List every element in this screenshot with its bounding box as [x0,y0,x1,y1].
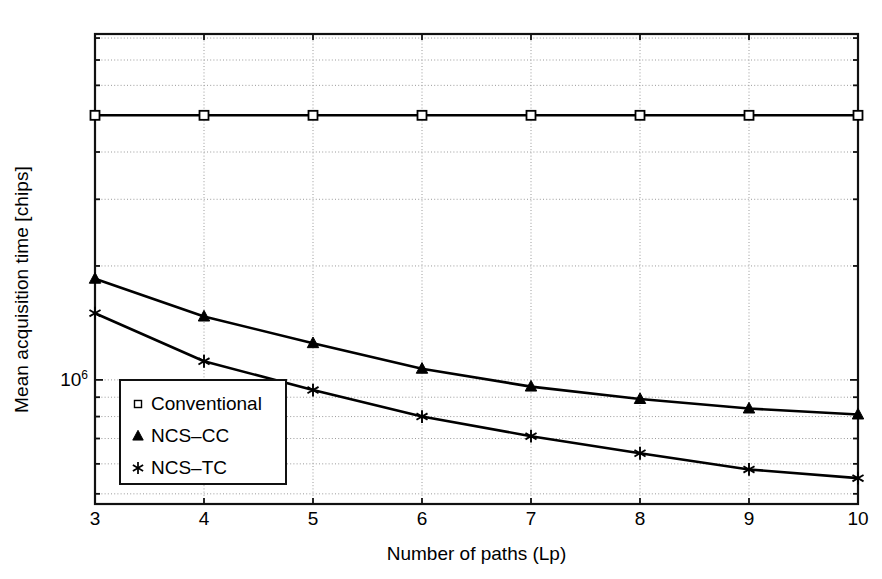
marker-square [309,111,318,120]
series-1 [91,111,863,120]
marker-square [527,111,536,120]
x-tick-label: 5 [308,508,319,530]
marker-triangle [89,273,100,284]
marker-square [134,400,141,407]
legend-marker-square-open-icon [121,389,151,419]
legend-item[interactable]: NCS–TC [121,451,285,485]
marker-square [636,111,645,120]
chart-figure: Mean acquisition time [chips] 106 345678… [0,0,882,579]
legend-label: NCS–TC [151,457,227,479]
marker-square [854,111,863,120]
marker-square [418,111,427,120]
legend-label: NCS–CC [151,425,229,447]
marker-triangle [133,430,143,440]
x-tick-label: 4 [199,508,210,530]
x-tick-label: 3 [90,508,101,530]
x-tick-label: 8 [635,508,646,530]
plot-area [0,0,882,579]
legend-marker-triangle-filled-icon [121,421,151,451]
marker-square [91,111,100,120]
marker-square [200,111,209,120]
legend-label: Conventional [151,393,262,415]
legend-item[interactable]: NCS–CC [121,419,285,453]
x-tick-label: 10 [847,508,868,530]
x-tick-label: 6 [417,508,428,530]
x-axis-label: Number of paths (Lp) [95,543,858,565]
legend-marker-asterisk-icon [121,453,151,483]
x-tick-label: 7 [526,508,537,530]
legend: ConventionalNCS–CCNCS–TC [119,379,287,485]
marker-square [745,111,754,120]
legend-item[interactable]: Conventional [121,387,285,421]
x-tick-label: 9 [744,508,755,530]
